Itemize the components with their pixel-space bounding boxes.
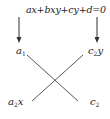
term-suffix: y xyxy=(97,45,103,56)
term-suffix: x xyxy=(18,96,24,107)
cross-multiplication-diagram: ax+bxy+cy+d=0 a1 c2y a2x c2 xyxy=(0,0,110,119)
cross-line-top-right-to-bottom-left xyxy=(32,55,83,101)
term-subscript: 1 xyxy=(22,50,26,57)
bottom-right-term: c2 xyxy=(90,97,99,108)
bottom-left-term: a2x xyxy=(8,97,23,108)
term-subscript: 2 xyxy=(96,101,100,108)
top-right-term: c2y xyxy=(88,46,103,57)
cross-line-top-left-to-bottom-right xyxy=(27,55,78,101)
right-down-arrow-icon xyxy=(95,17,100,43)
left-down-arrow-icon xyxy=(17,17,22,43)
top-left-term: a1 xyxy=(16,46,26,57)
equation-label: ax+bxy+cy+d=0 xyxy=(26,5,106,15)
